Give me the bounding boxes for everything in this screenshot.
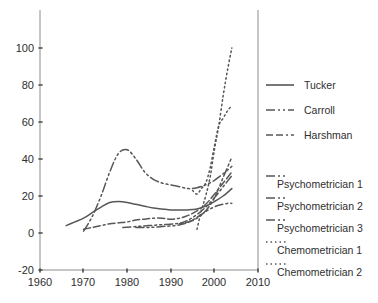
legend-item-label: Chemometrician 1 bbox=[277, 244, 362, 256]
legend-item-label: Psychometrician 2 bbox=[277, 200, 363, 212]
y-tick-label: 40 bbox=[22, 153, 34, 165]
x-tick-label: 1980 bbox=[115, 276, 139, 288]
y-tick-label: 20 bbox=[22, 190, 34, 202]
y-tick-labels: 100 80 60 40 20 0 -20 bbox=[16, 42, 34, 276]
legend-item-label: Tucker bbox=[304, 79, 336, 91]
x-tick-labels: 1960 1970 1980 1990 2000 2010 bbox=[28, 276, 270, 288]
y-tick-label: 60 bbox=[22, 116, 34, 128]
chart-figure: 100 80 60 40 20 0 -20 1960 1970 1980 199… bbox=[0, 0, 378, 303]
legend-item-label: Chemometrician 2 bbox=[277, 266, 362, 278]
line-chart: 100 80 60 40 20 0 -20 1960 1970 1980 199… bbox=[0, 0, 378, 303]
legend-item-label: Carroll bbox=[304, 104, 335, 116]
x-tick-label: 2000 bbox=[202, 276, 226, 288]
chart-series-layer bbox=[66, 48, 232, 231]
y-tick-label: 100 bbox=[16, 42, 34, 54]
y-tick-label: 0 bbox=[28, 227, 34, 239]
legend-item-label: Psychometrician 1 bbox=[277, 178, 363, 190]
series-line bbox=[84, 149, 232, 231]
x-tick-label: 1990 bbox=[159, 276, 183, 288]
series-line bbox=[193, 105, 232, 194]
x-tick-label: 2010 bbox=[246, 276, 270, 288]
x-tick-label: 1960 bbox=[28, 276, 52, 288]
legend-item-label: Harshman bbox=[304, 129, 353, 141]
y-tick-label: -20 bbox=[18, 264, 34, 276]
y-tick-label: 80 bbox=[22, 79, 34, 91]
chart-axes bbox=[40, 10, 258, 270]
legend-item-label: Psychometrician 3 bbox=[277, 222, 363, 234]
x-tick-label: 1970 bbox=[71, 276, 95, 288]
chart-legend: TuckerCarrollHarshmanPsychometrician 1Ps… bbox=[266, 79, 363, 279]
